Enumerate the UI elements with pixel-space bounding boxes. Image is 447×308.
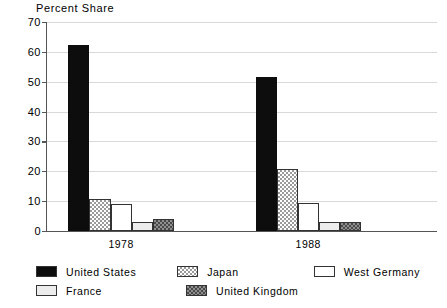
bars-1988 <box>256 22 361 231</box>
y-tick-label-20: 20 <box>28 165 41 177</box>
y-tick-mark-20 <box>42 171 47 172</box>
legend-item-france[interactable]: France <box>36 285 186 297</box>
bar-west-germany-1988[interactable] <box>298 203 319 231</box>
chart-legend: United StatesJapanWest GermanyFranceUnit… <box>36 262 436 300</box>
y-tick-label-50: 50 <box>28 76 41 88</box>
y-tick-mark-10 <box>42 201 47 202</box>
y-tick-mark-60 <box>42 52 47 53</box>
legend-row-2: FranceUnited Kingdom <box>36 281 436 300</box>
y-tick-label-30: 30 <box>28 135 41 147</box>
chart-title: Percent Share <box>36 2 114 14</box>
x-tick-label-1988: 1988 <box>296 238 321 250</box>
legend-label-united-states: United States <box>66 266 136 278</box>
legend-row-1: United StatesJapanWest Germany <box>36 262 436 281</box>
legend-item-united-states[interactable]: United States <box>36 266 177 278</box>
bar-france-1978[interactable] <box>132 222 153 231</box>
y-tick-mark-0 <box>42 231 47 232</box>
bar-japan-1978[interactable] <box>89 199 110 231</box>
legend-item-japan[interactable]: Japan <box>177 266 313 278</box>
bar-group-1978: 1978 <box>68 22 173 231</box>
legend-swatch-united-kingdom <box>186 285 207 296</box>
bar-west-germany-1978[interactable] <box>111 204 132 231</box>
y-tick-label-10: 10 <box>28 195 41 207</box>
plot-area: 01020304050607019781988 <box>46 22 437 232</box>
bar-chart: Percent Share 01020304050607019781988 Un… <box>0 0 447 308</box>
legend-swatch-west-germany <box>314 266 335 277</box>
y-tick-mark-40 <box>42 112 47 113</box>
y-tick-label-0: 0 <box>34 225 41 237</box>
gridline-0 <box>47 231 437 232</box>
legend-swatch-united-states <box>36 266 57 277</box>
bar-group-1988: 1988 <box>256 22 361 231</box>
legend-label-united-kingdom: United Kingdom <box>216 285 298 297</box>
plot-inner: 01020304050607019781988 <box>47 22 437 231</box>
legend-label-japan: Japan <box>207 266 238 278</box>
bar-united-kingdom-1978[interactable] <box>153 219 174 231</box>
bar-france-1988[interactable] <box>319 222 340 231</box>
y-tick-label-60: 60 <box>28 46 41 58</box>
y-tick-mark-30 <box>42 141 47 142</box>
legend-label-west-germany: West Germany <box>344 266 420 278</box>
bar-united-states-1978[interactable] <box>68 45 89 231</box>
legend-swatch-japan <box>177 266 198 277</box>
bars-1978 <box>68 22 173 231</box>
legend-item-west-germany[interactable]: West Germany <box>314 266 436 278</box>
x-tick-label-1978: 1978 <box>108 238 133 250</box>
bar-united-states-1988[interactable] <box>256 77 277 231</box>
legend-item-united-kingdom[interactable]: United Kingdom <box>186 285 331 297</box>
bar-japan-1988[interactable] <box>277 169 298 231</box>
y-tick-label-40: 40 <box>28 106 41 118</box>
y-tick-mark-70 <box>42 22 47 23</box>
y-tick-mark-50 <box>42 82 47 83</box>
legend-label-france: France <box>66 285 102 297</box>
bar-united-kingdom-1988[interactable] <box>340 222 361 231</box>
y-tick-label-70: 70 <box>28 16 41 28</box>
legend-swatch-france <box>36 285 57 296</box>
